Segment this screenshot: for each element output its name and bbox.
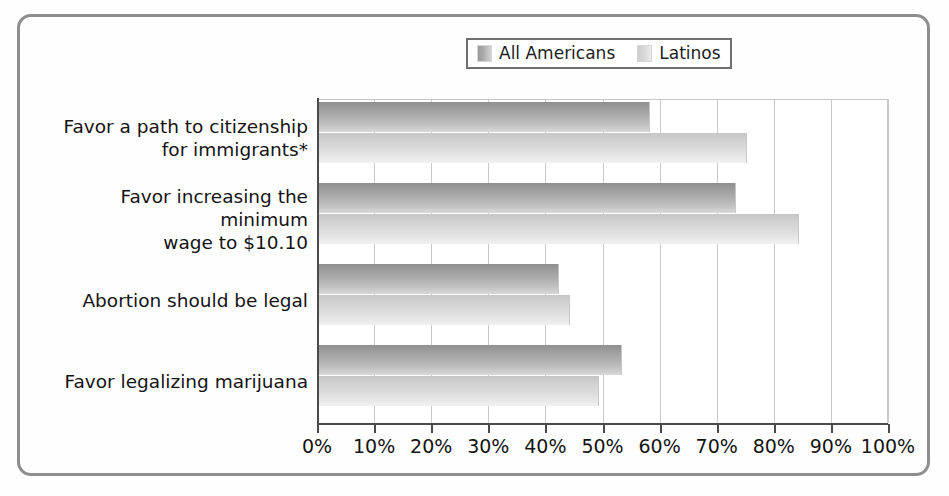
y-axis-line bbox=[317, 98, 319, 424]
legend-label-latinos: Latinos bbox=[659, 44, 720, 62]
bar-group-2 bbox=[319, 183, 888, 245]
x-tick-80 bbox=[774, 424, 776, 433]
legend-item-latinos: Latinos bbox=[637, 44, 720, 62]
x-tick-label-70: 70% bbox=[696, 435, 738, 457]
category-label-line: wage to $10.10 bbox=[40, 231, 308, 254]
x-tick-label-60: 60% bbox=[638, 435, 680, 457]
chart-legend: All Americans Latinos bbox=[466, 38, 732, 69]
chart-figure: All Americans Latinos Favor a path to ci… bbox=[0, 0, 949, 496]
x-tick-label-50: 50% bbox=[581, 435, 623, 457]
x-axis-tick-labels: 0%10%20%30%40%50%60%70%80%90%100% bbox=[0, 435, 949, 461]
bar-all-americans-1 bbox=[319, 102, 650, 132]
x-tick-label-40: 40% bbox=[524, 435, 566, 457]
x-tick-0 bbox=[317, 424, 319, 433]
x-tick-label-10: 10% bbox=[353, 435, 395, 457]
category-label-line: Favor legalizing marijuana bbox=[40, 370, 308, 393]
legend-label-all-americans: All Americans bbox=[499, 44, 615, 62]
category-label-abortion: Abortion should be legal bbox=[40, 289, 308, 312]
category-label-marijuana: Favor legalizing marijuana bbox=[40, 370, 308, 393]
bar-group-3 bbox=[319, 264, 888, 326]
all-americans-swatch-icon bbox=[477, 45, 492, 62]
bar-latinos-1 bbox=[319, 133, 747, 163]
x-tick-70 bbox=[717, 424, 719, 433]
bar-latinos-3 bbox=[319, 295, 570, 325]
x-tick-60 bbox=[660, 424, 662, 433]
x-tick-30 bbox=[488, 424, 490, 433]
category-label-line: Favor a path to citizenship bbox=[40, 115, 308, 138]
legend-item-all-americans: All Americans bbox=[477, 44, 615, 62]
bar-all-americans-3 bbox=[319, 264, 559, 294]
bar-group-1 bbox=[319, 102, 888, 164]
category-label-citizenship: Favor a path to citizenship for immigran… bbox=[40, 115, 308, 161]
x-tick-40 bbox=[545, 424, 547, 433]
bar-group-4 bbox=[319, 345, 888, 407]
bar-all-americans-4 bbox=[319, 345, 622, 375]
x-tick-10 bbox=[374, 424, 376, 433]
x-tick-label-80: 80% bbox=[753, 435, 795, 457]
bar-all-americans-2 bbox=[319, 183, 736, 213]
category-label-line: Abortion should be legal bbox=[40, 289, 308, 312]
x-tick-label-90: 90% bbox=[810, 435, 852, 457]
x-tick-90 bbox=[831, 424, 833, 433]
category-label-minimum-wage: Favor increasing the minimum wage to $10… bbox=[40, 185, 308, 254]
plot-area bbox=[317, 99, 888, 423]
bar-latinos-2 bbox=[319, 214, 799, 244]
x-axis-ticks bbox=[317, 424, 890, 434]
x-tick-50 bbox=[603, 424, 605, 433]
latinos-swatch-icon bbox=[637, 45, 652, 62]
x-tick-100 bbox=[888, 424, 890, 433]
x-tick-label-20: 20% bbox=[410, 435, 452, 457]
gridline-100 bbox=[888, 99, 889, 423]
bar-latinos-4 bbox=[319, 376, 599, 406]
x-tick-label-30: 30% bbox=[467, 435, 509, 457]
category-label-line: Favor increasing the minimum bbox=[40, 185, 308, 231]
category-label-line: for immigrants* bbox=[40, 138, 308, 161]
x-tick-label-0: 0% bbox=[302, 435, 332, 457]
x-tick-label-100: 100% bbox=[861, 435, 915, 457]
x-tick-20 bbox=[431, 424, 433, 433]
category-axis-labels: Favor a path to citizenship for immigran… bbox=[40, 99, 308, 423]
